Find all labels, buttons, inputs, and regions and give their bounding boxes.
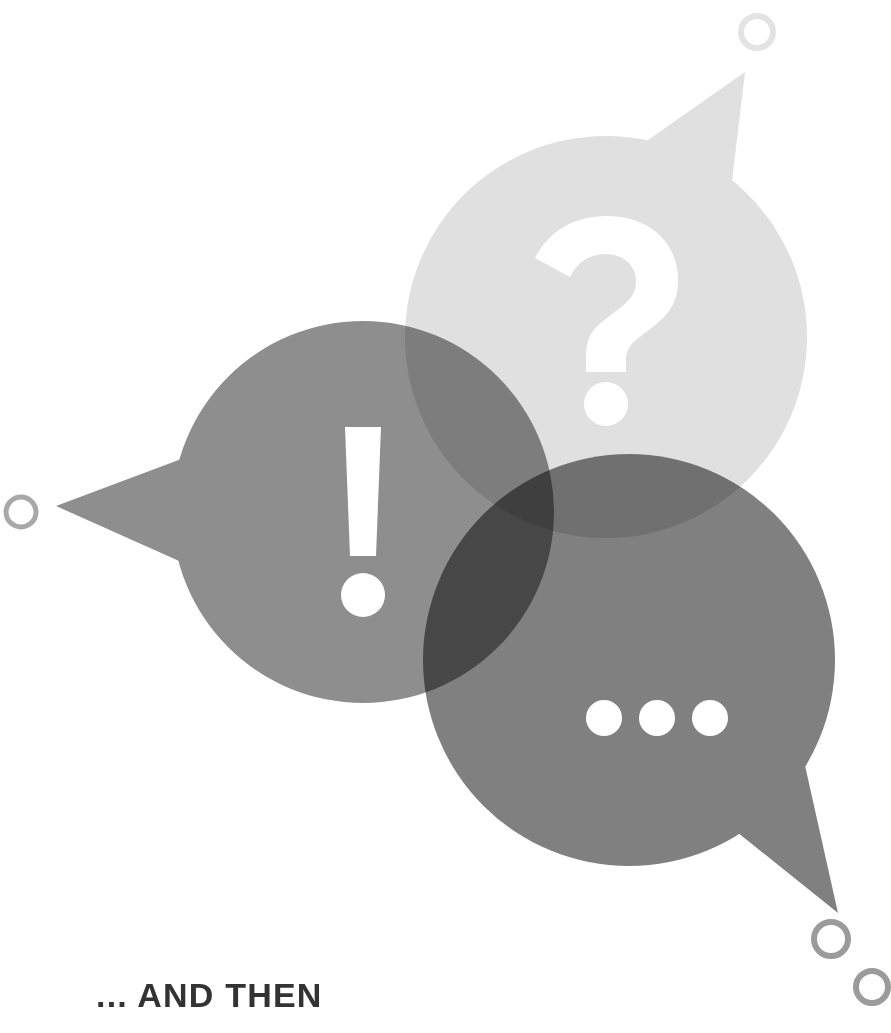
ring-left-icon bbox=[6, 497, 36, 527]
ellipsis-bubble bbox=[423, 454, 838, 913]
ellipsis-dots-icon bbox=[586, 700, 728, 736]
ring-bottom-right-lower-icon bbox=[856, 971, 888, 1003]
bubbles-group bbox=[56, 72, 838, 913]
ellipsis-bubble-body bbox=[423, 454, 835, 866]
page-title: ... AND THEN bbox=[96, 978, 323, 1012]
poster-canvas: ... AND THEN bbox=[0, 0, 891, 1033]
ring-bottom-right-upper-icon bbox=[814, 922, 848, 956]
ring-top-right-icon bbox=[741, 16, 773, 48]
speech-bubbles-illustration bbox=[0, 0, 891, 1033]
